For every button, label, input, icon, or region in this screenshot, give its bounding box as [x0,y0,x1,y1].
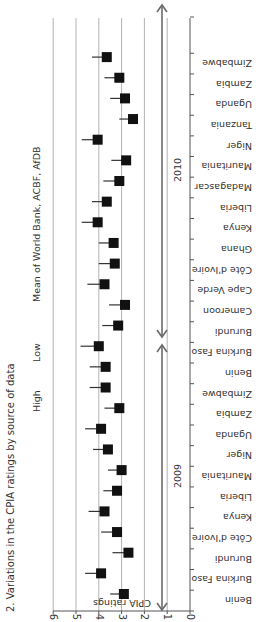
mean-marker [120,300,130,310]
category-label: Kenya [223,223,252,234]
chart-title: 2. Variations in the CPIA ratings by sou… [5,363,16,612]
mean-marker [100,506,110,516]
category-label: Madagascar [194,182,252,193]
legend-mean: Mean of World Bank, ACBF, AfDB [31,146,42,302]
tick-label: 0 [185,614,196,620]
mean-marker [93,135,103,145]
category-label: Niger [226,450,252,461]
category-label: Benin [225,595,252,606]
mean-marker [120,93,130,103]
mean-marker [96,568,106,578]
mean-marker [112,527,122,537]
year-label-2009: 2009 [172,464,183,488]
category-label: Burundi [215,327,252,338]
mean-marker [110,259,120,269]
category-label: Cape Verde [197,285,252,296]
category-label: Côte d'Ivoire [192,533,252,544]
mean-marker [101,362,111,372]
category-label: Liberia [220,203,252,214]
tick-label: 3 [117,614,128,620]
data-points [81,52,138,599]
mean-marker [103,444,113,454]
tick-label: 6 [48,614,59,620]
category-label: Mauritania [201,471,252,482]
tick-label: 2 [139,614,150,620]
mean-marker [96,424,106,434]
mean-marker [128,114,138,124]
cpia-chart: 0123456 BeninBurkina FasoBurundiCôte d'I… [0,0,262,622]
mean-marker [102,52,112,62]
mean-marker [113,321,123,331]
category-label: Zimbabwe [202,58,252,69]
mean-marker [117,465,127,475]
mean-marker [101,383,111,393]
category-label: Zambia [216,409,252,420]
mean-marker [114,403,124,413]
category-label: Niger [226,141,252,152]
year-arrows [157,5,167,610]
legend-high: High [31,390,42,412]
y-axis-title: CPIA ratings [93,598,151,609]
category-label: Zambia [216,79,252,90]
category-label: Burkina Faso [191,574,252,585]
category-label: Zimbabwe [202,389,252,400]
year-label-2010: 2010 [172,158,183,182]
mean-marker [109,238,119,248]
category-label: Burkina Faso [191,347,252,358]
mean-marker [123,548,133,558]
mean-marker [100,279,110,289]
mean-marker [94,341,104,351]
tick-label: 1 [162,614,173,620]
category-label: Benin [225,368,252,379]
category-label: Cameroon [203,306,252,317]
category-label: Tanzania [211,120,253,131]
category-label: Uganda [215,99,252,110]
axes: 0123456 [48,17,196,620]
category-labels: BeninBurkina FasoBurundiCôte d'IvoireKen… [191,58,253,606]
category-label: Uganda [215,430,252,441]
category-label: Liberia [220,492,252,503]
category-label: Burundi [215,554,252,565]
mean-marker [102,197,112,207]
mean-marker [114,176,124,186]
mean-marker [112,486,122,496]
mean-marker [121,155,131,165]
gridlines [53,18,167,611]
mean-marker [93,217,103,227]
category-label: Kenya [223,512,252,523]
tick-label: 5 [71,614,82,620]
mean-marker [114,73,124,83]
legend-low: Low [31,343,42,362]
mean-marker [119,589,129,599]
category-label: Mauritania [201,161,252,172]
category-label: Ghana [221,244,252,255]
tick-label: 4 [94,614,105,620]
category-label: Côte d'Ivoire [192,265,252,276]
